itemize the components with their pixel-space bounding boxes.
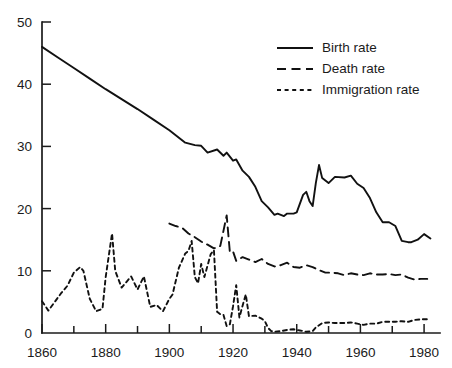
x-tick-label-1940: 1940: [282, 345, 312, 360]
x-axis-group: 1860188019001920194019601980: [27, 324, 440, 360]
series-line-birth-rate: [42, 47, 430, 242]
series-line-immigration-rate: [42, 233, 427, 331]
x-tick-label-1900: 1900: [154, 345, 184, 360]
y-tick-label-50: 50: [17, 15, 32, 30]
y-tick-label-10: 10: [17, 264, 32, 279]
x-tick-label-group: 1860188019001920194019601980: [27, 345, 439, 360]
series-line-death-rate: [169, 215, 427, 279]
legend-label-birth-rate: Birth rate: [322, 40, 377, 55]
x-tick-group: [42, 324, 424, 333]
y-tick-label-0: 0: [24, 326, 32, 341]
x-tick-label-1860: 1860: [27, 345, 57, 360]
x-tick-label-1960: 1960: [345, 345, 375, 360]
legend-label-death-rate: Death rate: [322, 61, 385, 76]
x-tick-label-1980: 1980: [409, 345, 439, 360]
y-tick-label-20: 20: [17, 202, 32, 217]
chart-container: 01020304050 1860188019001920194019601980…: [0, 0, 452, 368]
x-tick-label-1880: 1880: [91, 345, 121, 360]
x-tick-label-1920: 1920: [218, 345, 248, 360]
y-axis-group: 01020304050: [17, 15, 51, 341]
y-tick-group: [42, 22, 51, 271]
y-tick-label-40: 40: [17, 77, 32, 92]
legend-label-immigration-rate: Immigration rate: [322, 82, 420, 97]
line-chart: 01020304050 1860188019001920194019601980…: [0, 0, 452, 368]
y-tick-label-30: 30: [17, 139, 32, 154]
y-tick-label-group: 01020304050: [17, 15, 32, 341]
chart-legend: Birth rateDeath rateImmigration rate: [277, 40, 420, 97]
